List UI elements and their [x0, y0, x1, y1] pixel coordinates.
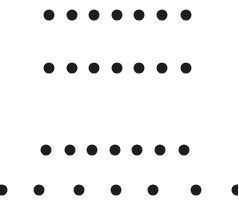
dot-icon — [67, 63, 78, 74]
dot-icon — [65, 145, 76, 156]
dot-icon — [181, 10, 192, 21]
dot-icon — [191, 185, 202, 196]
dot-icon — [111, 185, 122, 196]
dot-icon — [74, 185, 85, 196]
dot-icon — [89, 63, 100, 74]
dot-icon — [112, 63, 123, 74]
dot-icon — [0, 185, 8, 196]
dot-icon — [148, 185, 159, 196]
dot-icon — [44, 10, 55, 21]
dot-icon — [179, 145, 190, 156]
dot-icon — [157, 63, 168, 74]
dot-icon — [112, 10, 123, 21]
dot-icon — [87, 145, 98, 156]
dot-icon — [157, 10, 168, 21]
dot-icon — [44, 63, 55, 74]
dot-icon — [89, 10, 100, 21]
dot-icon — [110, 145, 121, 156]
dot-icon — [181, 63, 192, 74]
dot-icon — [132, 145, 143, 156]
dot-icon — [232, 185, 239, 196]
dot-icon — [134, 63, 145, 74]
dot-icon — [155, 145, 166, 156]
dot-icon — [134, 10, 145, 21]
dot-icon — [34, 185, 45, 196]
dot-icon — [67, 10, 78, 21]
dot-icon — [41, 145, 52, 156]
